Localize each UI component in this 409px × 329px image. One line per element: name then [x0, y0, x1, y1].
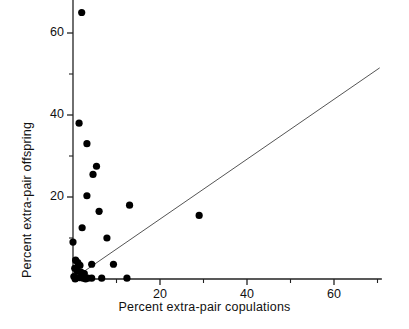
- data-point: [196, 212, 203, 219]
- data-point: [79, 224, 86, 231]
- data-point: [69, 239, 76, 246]
- data-point: [83, 192, 90, 199]
- data-point: [93, 163, 100, 170]
- data-point: [98, 275, 105, 282]
- y-tick-label: 60: [50, 25, 64, 39]
- data-point: [89, 171, 96, 178]
- x-tick-label: 20: [149, 287, 171, 301]
- scatter-plot-figure: Percent extra-pair offspring Percent ext…: [0, 0, 409, 329]
- data-point: [82, 275, 89, 282]
- data-point: [126, 202, 133, 209]
- data-point: [123, 275, 130, 282]
- y-tick-label: 20: [50, 189, 64, 203]
- plot-canvas: [0, 0, 409, 329]
- data-point: [72, 275, 79, 282]
- data-point: [103, 234, 110, 241]
- y-axis-label: Percent extra-pair offspring: [20, 122, 34, 278]
- data-point: [75, 120, 82, 127]
- y-tick-label: 40: [50, 107, 64, 121]
- data-point: [78, 9, 85, 16]
- data-point: [88, 275, 95, 282]
- reference-line: [73, 68, 380, 279]
- x-axis-label: Percent extra-pair copulations: [0, 300, 409, 314]
- x-tick-label: 60: [323, 287, 345, 301]
- data-point: [88, 261, 95, 268]
- x-tick-label: 40: [236, 287, 258, 301]
- data-point: [83, 140, 90, 147]
- y-axis-label-container: Percent extra-pair offspring: [0, 0, 24, 285]
- data-point: [96, 208, 103, 215]
- data-point: [110, 261, 117, 268]
